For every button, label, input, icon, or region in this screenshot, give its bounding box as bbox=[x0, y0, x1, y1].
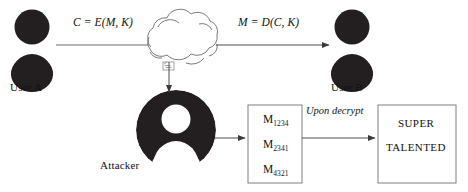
diagram-vector-layer bbox=[0, 0, 468, 192]
captured-message-subscript: 1234 bbox=[273, 119, 288, 128]
user-a-avatar-icon bbox=[11, 10, 53, 93]
cloud-icon bbox=[148, 9, 218, 64]
upon-decrypt-label: Upon decrypt bbox=[306, 106, 363, 117]
user-b-label: User B bbox=[331, 82, 363, 93]
user-a-label: User A bbox=[10, 82, 42, 93]
captured-message-item: M4321 bbox=[263, 164, 289, 178]
decrypted-output-line-2: TALENTED bbox=[386, 142, 446, 153]
captured-message-base: M bbox=[263, 138, 273, 150]
attacker-avatar-icon bbox=[136, 90, 216, 170]
decrypt-formula-label: M = D(C, K) bbox=[238, 17, 299, 29]
captured-message-base: M bbox=[263, 113, 273, 125]
captured-message-subscript: 4321 bbox=[273, 169, 288, 178]
captured-message-item: M1234 bbox=[263, 114, 289, 128]
diagram-canvas: User A User B Attacker C = E(M, K) M = D… bbox=[0, 0, 468, 192]
captured-message-subscript: 2341 bbox=[273, 144, 288, 153]
user-b-avatar-icon bbox=[331, 10, 373, 93]
attacker-label: Attacker bbox=[100, 160, 139, 171]
captured-message-item: M2341 bbox=[263, 139, 289, 153]
captured-message-base: M bbox=[263, 163, 273, 175]
decrypted-output-line-1: SUPER bbox=[398, 118, 434, 129]
encrypt-formula-label: C = E(M, K) bbox=[73, 17, 133, 29]
